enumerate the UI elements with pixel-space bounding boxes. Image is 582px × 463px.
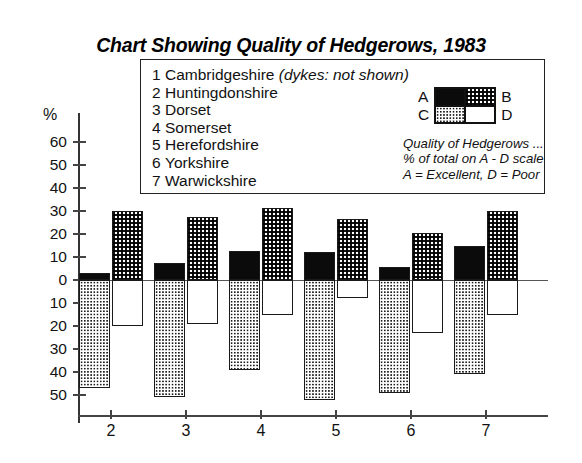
x-axis-tick-label: 3 [171, 422, 201, 440]
bar-a-group-2 [79, 273, 110, 280]
x-axis-tick-label: 2 [96, 422, 126, 440]
y-axis-tick-label: 10 [33, 249, 67, 265]
y-axis-tick [73, 233, 86, 235]
bar-a-group-6 [379, 267, 410, 280]
bar-d-group-2 [112, 280, 143, 326]
bar-c-group-3 [154, 280, 185, 397]
bar-c-group-5 [304, 280, 335, 400]
bar-c-group-4 [229, 280, 260, 370]
chart-content: Chart Showing Quality of Hedgerows, 1983… [15, 12, 567, 449]
bar-b-group-7 [487, 211, 518, 280]
y-axis-tick [73, 141, 86, 143]
bar-b-group-2 [112, 211, 143, 280]
chart-page: Chart Showing Quality of Hedgerows, 1983… [0, 0, 582, 463]
y-axis-tick-label: 50 [33, 157, 67, 173]
y-axis-tick [73, 187, 86, 189]
y-axis-tick-label: 0 [33, 272, 67, 288]
bar-b-group-4 [262, 208, 293, 280]
bar-a-group-7 [454, 246, 485, 281]
x-axis-tick [410, 410, 412, 419]
x-axis-tick [110, 410, 112, 419]
y-axis-tick-label: 40 [33, 180, 67, 196]
bar-a-group-3 [154, 263, 185, 280]
bar-d-group-4 [262, 280, 293, 315]
x-axis-tick [185, 410, 187, 419]
y-axis-tick-label: 20 [33, 318, 67, 334]
y-axis-tick [73, 256, 86, 258]
x-axis-tick [485, 410, 487, 419]
bar-a-group-5 [304, 252, 335, 280]
x-axis-tick-label: 4 [246, 422, 276, 440]
y-axis-tick-label: 40 [33, 364, 67, 380]
bar-d-group-6 [412, 280, 443, 333]
bar-b-group-5 [337, 219, 368, 280]
bar-d-group-7 [487, 280, 518, 315]
x-axis-tick-label: 7 [471, 422, 501, 440]
x-axis-tick-label: 5 [321, 422, 351, 440]
bar-b-group-6 [412, 233, 443, 280]
bar-c-group-6 [379, 280, 410, 393]
y-axis-tick [73, 394, 86, 396]
y-axis-tick-label: 20 [33, 226, 67, 242]
y-axis-tick-label: 30 [33, 341, 67, 357]
y-axis-tick [73, 210, 86, 212]
bar-b-group-3 [187, 217, 218, 280]
y-axis-tick [73, 164, 86, 166]
bar-a-group-4 [229, 251, 260, 280]
x-axis-tick [260, 410, 262, 419]
y-axis-tick-label: 30 [33, 203, 67, 219]
y-axis-tick-label: 60 [33, 134, 67, 150]
bar-c-group-7 [454, 280, 485, 374]
y-axis-title: % [43, 106, 57, 124]
bar-d-group-5 [337, 280, 368, 298]
x-axis-line [78, 415, 548, 417]
x-axis-tick [335, 410, 337, 419]
y-axis-tick-label: 50 [33, 387, 67, 403]
plot-area: % 60504030201001020304050 234567 [15, 12, 567, 449]
y-axis-tick-label: 10 [33, 295, 67, 311]
bar-c-group-2 [79, 280, 110, 388]
x-axis-tick-label: 6 [396, 422, 426, 440]
bar-d-group-3 [187, 280, 218, 324]
